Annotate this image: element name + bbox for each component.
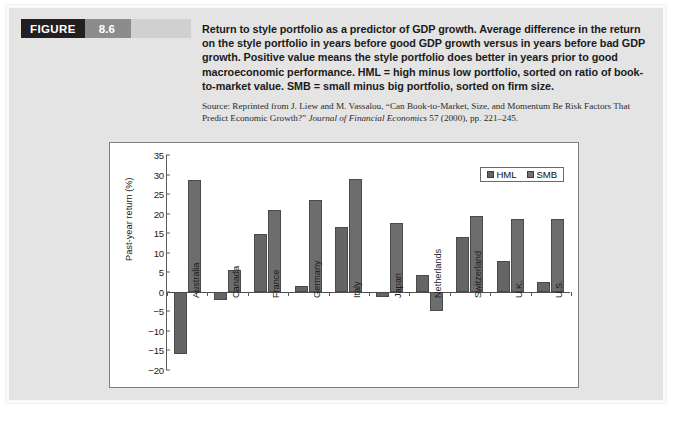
figure-label: FIGURE (21, 19, 85, 38)
y-axis-tick: 0 (159, 286, 164, 297)
y-axis-tick: 15 (154, 228, 164, 239)
plot-area: AustraliaCanadaFranceGermanyItalyJapanNe… (167, 155, 570, 370)
y-axis-tick: −15 (148, 345, 164, 356)
legend-swatch-icon (527, 171, 534, 178)
y-axis-tick: 30 (154, 169, 164, 180)
x-axis-category-label: Italy (352, 281, 362, 298)
y-axis-tick-labels: 35302520151050−5−10−15−20 (124, 155, 164, 370)
legend-item-smb: SMB (527, 169, 558, 180)
bar-group: U.K. (490, 155, 530, 370)
x-axis-category-label: Netherlands (433, 249, 443, 298)
x-axis-category-label: France (271, 269, 281, 297)
bar-group: Netherlands (409, 155, 449, 370)
y-axis-tick-mark (166, 311, 170, 312)
bar-hml (174, 292, 187, 354)
x-axis-category-label: Switzerland (473, 251, 483, 298)
y-axis-tick-mark (166, 272, 170, 273)
x-axis-category-label: Australia (191, 263, 201, 298)
figure-header-tail (131, 19, 191, 38)
bar-hml (254, 234, 267, 292)
figure-source: Source: Reprinted from J. Liew and M. Va… (202, 100, 654, 125)
bar-smb (349, 179, 362, 292)
y-axis-tick-mark (166, 155, 170, 156)
figure-header: FIGURE 8.6 (21, 19, 191, 38)
y-axis-tick-mark (166, 350, 170, 351)
legend-item-hml: HML (487, 169, 517, 180)
x-axis-tick-mark (288, 292, 289, 296)
x-axis-tick-mark (329, 292, 330, 296)
figure-number: 8.6 (85, 19, 131, 38)
x-axis-tick-mark (450, 292, 451, 296)
x-axis-tick-mark (369, 292, 370, 296)
y-axis-tick-mark (166, 174, 170, 175)
x-axis-tick-mark (571, 292, 572, 296)
y-axis-tick: −10 (148, 325, 164, 336)
x-axis-category-label: U.S. (554, 280, 564, 298)
source-suffix: 57 (2000), pp. 221–245. (427, 113, 518, 123)
y-axis-tick: 10 (154, 247, 164, 258)
x-axis-tick-mark (490, 292, 491, 296)
y-axis-tick: −20 (148, 365, 164, 376)
legend-swatch-icon (487, 171, 494, 178)
x-axis-tick-mark (207, 292, 208, 296)
x-axis-category-label: U.K. (514, 280, 524, 298)
bar-group: France (248, 155, 288, 370)
bar-group: Switzerland (450, 155, 490, 370)
bar-hml (456, 237, 469, 292)
bar-group: Canada (207, 155, 247, 370)
y-axis-tick-mark (166, 370, 170, 371)
y-axis-tick: 20 (154, 208, 164, 219)
bar-group: Japan (369, 155, 409, 370)
y-axis-tick-mark (166, 233, 170, 234)
x-axis-tick-mark (531, 292, 532, 296)
legend-label: HML (497, 169, 517, 180)
bar-hml (335, 227, 348, 292)
bar-hml (416, 275, 429, 292)
y-axis-tick-mark (166, 330, 170, 331)
chart-legend: HMLSMB (480, 167, 564, 182)
bar-hml (295, 286, 308, 291)
bar-hml (537, 282, 550, 291)
chart-container: Past-year return (%) 35302520151050−5−10… (109, 142, 579, 388)
bar-group: Italy (329, 155, 369, 370)
bar-group: Australia (167, 155, 207, 370)
y-axis-tick: 25 (154, 189, 164, 200)
y-axis-tick-mark (166, 291, 170, 292)
x-axis-category-label: Canada (231, 266, 241, 298)
y-axis-tick: −5 (153, 306, 164, 317)
y-axis-tick: 35 (154, 150, 164, 161)
chart-plot-wrapper: Past-year return (%) 35302520151050−5−10… (110, 143, 578, 387)
figure-caption: Return to style portfolio as a predictor… (202, 22, 654, 93)
y-axis-tick-mark (166, 213, 170, 214)
caption-block: Return to style portfolio as a predictor… (202, 22, 654, 125)
x-axis-tick-mark (248, 292, 249, 296)
x-axis-tick-mark (167, 292, 168, 296)
x-axis-tick-mark (409, 292, 410, 296)
bar-group: U.S. (531, 155, 571, 370)
bar-hml (497, 261, 510, 291)
x-axis-category-label: Germany (312, 260, 322, 298)
x-axis-category-label: Japan (393, 273, 403, 298)
figure-panel: FIGURE 8.6 Return to style portfolio as … (6, 5, 666, 403)
y-axis-tick: 5 (159, 267, 164, 278)
y-axis-tick-mark (166, 194, 170, 195)
bar-hml (214, 292, 227, 301)
source-journal: Journal of Financial Economics (308, 113, 427, 123)
bar-group: Germany (288, 155, 328, 370)
legend-label: SMB (537, 169, 558, 180)
bar-hml (376, 292, 389, 297)
y-axis-tick-mark (166, 252, 170, 253)
